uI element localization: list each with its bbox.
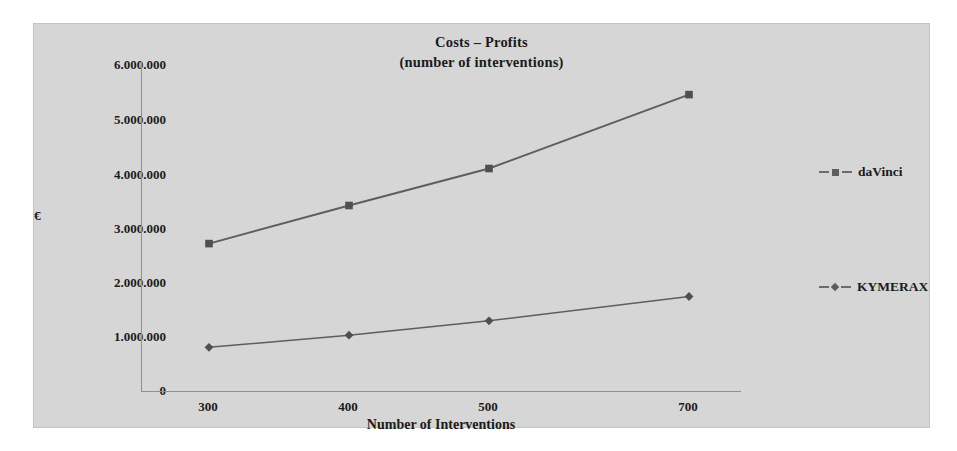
legend-label-davinci: daVinci: [858, 164, 903, 180]
chart-plot-background: Costs – Profits (number of interventions…: [33, 23, 930, 428]
legend-line-icon: [842, 171, 852, 173]
legend-line-icon: [841, 286, 851, 288]
x-tick-label-500: 500: [478, 399, 498, 415]
x-axis-title: Number of Interventions: [141, 417, 741, 433]
legend-label-kymerax: KYMERAX: [857, 279, 928, 295]
chart-figure: Costs – Profits (number of interventions…: [0, 0, 957, 451]
x-tick-label-400: 400: [338, 399, 358, 415]
diamond-marker-icon: [831, 283, 839, 291]
legend-line-icon: [819, 171, 829, 173]
square-marker-icon: [832, 169, 839, 176]
legend-item-kymerax[interactable]: KYMERAX: [819, 279, 928, 295]
x-axis-tick-labels: 300 400 500 700: [34, 24, 931, 429]
x-tick-label-700: 700: [678, 399, 698, 415]
legend-line-icon: [819, 286, 829, 288]
legend-item-davinci[interactable]: daVinci: [819, 164, 903, 180]
x-tick-label-300: 300: [198, 399, 218, 415]
